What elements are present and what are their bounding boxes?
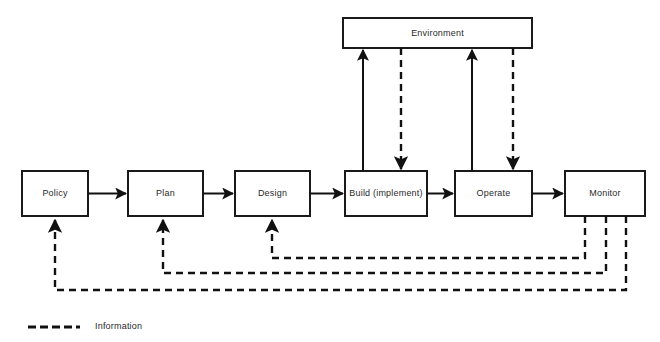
- node-monitor[interactable]: Monitor: [565, 171, 645, 216]
- node-environment[interactable]: Environment: [343, 18, 532, 48]
- legend-information-label: Information: [95, 321, 142, 331]
- design-label: Design: [258, 188, 287, 198]
- node-design[interactable]: Design: [235, 171, 310, 216]
- legend: Information: [28, 321, 142, 331]
- node-build[interactable]: Build (implement): [345, 171, 427, 216]
- node-policy[interactable]: Policy: [22, 171, 88, 216]
- monitor-label: Monitor: [589, 188, 620, 198]
- policy-label: Policy: [42, 188, 68, 198]
- info-monitor-to-design: [272, 216, 585, 258]
- diagram-canvas: Environment Policy Plan Design Build (im…: [0, 0, 660, 342]
- info-monitor-to-policy: [55, 216, 626, 290]
- node-operate[interactable]: Operate: [455, 171, 532, 216]
- plan-label: Plan: [156, 188, 175, 198]
- build-label: Build (implement): [349, 188, 422, 198]
- process-diagram: Environment Policy Plan Design Build (im…: [0, 0, 660, 342]
- operate-label: Operate: [477, 188, 511, 198]
- info-monitor-to-plan: [163, 216, 606, 273]
- node-plan[interactable]: Plan: [128, 171, 203, 216]
- environment-label: Environment: [411, 28, 464, 38]
